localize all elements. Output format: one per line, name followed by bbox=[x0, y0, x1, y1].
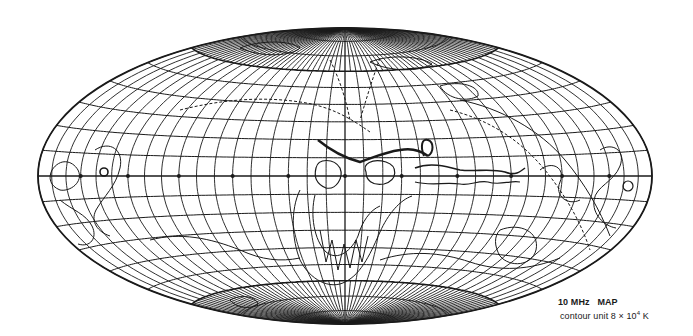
contour-unit-text: contour unit bbox=[560, 311, 608, 321]
contour-unit-value: 8 × 10 bbox=[611, 311, 637, 321]
sky-map-figure bbox=[0, 0, 693, 336]
equator-marker-dot bbox=[177, 174, 181, 178]
contour-ridge-loop bbox=[422, 140, 433, 156]
contour-left-spot bbox=[100, 168, 108, 176]
equator-marker-dot bbox=[400, 174, 404, 178]
contour-center-band-2 bbox=[415, 182, 520, 185]
map-caption: 10 MHz MAP contour unit 8 × 104 K bbox=[558, 297, 649, 322]
contour-right-spot bbox=[623, 181, 633, 191]
equator-marker-dot bbox=[79, 174, 83, 178]
contour-center-blob-a bbox=[365, 161, 395, 185]
equator-marker-dot bbox=[509, 174, 513, 178]
equator-marker-dot bbox=[126, 174, 130, 178]
contour-top-right-loop bbox=[440, 84, 478, 100]
equator-marker-dot bbox=[607, 174, 611, 178]
contour-center-blob-b bbox=[315, 161, 341, 189]
equator-marker-dot bbox=[560, 174, 564, 178]
equator-marker-dot bbox=[455, 174, 459, 178]
contour-upper-right-loop bbox=[370, 57, 432, 70]
equator-marker-dot bbox=[286, 174, 290, 178]
equator-marker-dot bbox=[231, 174, 235, 178]
contour-unit-label: contour unit 8 × 104 K bbox=[558, 308, 649, 322]
contour-ridge-north-of-center bbox=[318, 140, 428, 162]
contour-center-band-1 bbox=[415, 165, 525, 174]
contour-right-arc-dashed bbox=[450, 110, 590, 250]
contour-unit-suffix: K bbox=[640, 311, 649, 321]
map-title: 10 MHz MAP bbox=[558, 297, 649, 308]
equator-marker-dot bbox=[343, 174, 347, 178]
